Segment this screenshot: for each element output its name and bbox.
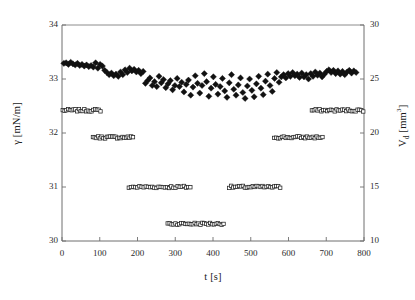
x-tick-label-0: 0 [47, 248, 77, 258]
y-left-tick-label-31: 31 [34, 181, 58, 191]
x-tick-label-400: 400 [198, 248, 228, 258]
y-right-subscript: d [402, 135, 411, 139]
x-axis-title: t [s] [158, 271, 268, 282]
x-tick-label-200: 200 [123, 248, 153, 258]
x-tick-label-500: 500 [236, 248, 266, 258]
y-left-tick-label-34: 34 [34, 19, 58, 29]
y-right-tick-label-25: 25 [370, 73, 394, 83]
x-tick-label-100: 100 [85, 248, 115, 258]
x-tick-label-600: 600 [274, 248, 304, 258]
y-left-tick-label-32: 32 [34, 127, 58, 137]
y-axis-right-title: Vd [mm3] [395, 84, 411, 168]
y-right-tick-label-15: 15 [370, 181, 394, 191]
y-right-tick-label-10: 10 [370, 235, 394, 245]
y-right-symbol: V [397, 139, 408, 147]
y-right-tick-label-20: 20 [370, 127, 394, 137]
y-left-tick-label-33: 33 [34, 73, 58, 83]
x-tick-label-700: 700 [311, 248, 341, 258]
y-right-unit: [mm [397, 112, 408, 135]
y-right-tick-label-30: 30 [370, 19, 394, 29]
y-right-bracket: ] [397, 105, 408, 109]
y-axis-left-title: γ [mN/m] [11, 82, 22, 166]
x-tick-label-300: 300 [160, 248, 190, 258]
y-right-superscript: 3 [395, 108, 403, 112]
x-tick-label-800: 800 [349, 248, 379, 258]
y-left-tick-label-30: 30 [34, 235, 58, 245]
chart-figure: γ [mN/m] Vd [mm3] t [s] 0100200300400500… [0, 0, 415, 300]
